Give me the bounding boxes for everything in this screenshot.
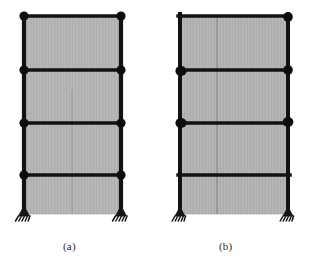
support-hatch <box>113 216 116 221</box>
support-hatch <box>16 216 19 221</box>
infill-panel-b-storey-1 <box>180 16 288 70</box>
plastic-hinge-marker <box>116 170 125 179</box>
infill-panel-b-storey-3 <box>180 123 288 175</box>
plastic-hinge-marker <box>116 118 125 127</box>
frame-diagram-svg <box>0 0 312 265</box>
plastic-hinge-marker <box>116 11 125 20</box>
plastic-hinge-marker <box>19 11 28 20</box>
subfigure-caption-b: (b) <box>219 240 232 252</box>
plastic-hinge-marker <box>19 118 28 127</box>
support-hatch <box>28 216 30 221</box>
subfigure-b <box>172 12 293 221</box>
plastic-hinge-marker <box>19 170 28 179</box>
support-hatch <box>116 216 119 221</box>
plastic-hinge-marker <box>116 65 125 74</box>
support-hatch <box>122 216 124 221</box>
support-hatch <box>175 216 178 221</box>
figure-container: (a) (b) <box>0 0 312 265</box>
infill-panel-a-storey-2 <box>24 70 121 123</box>
plastic-hinge-marker <box>175 118 186 128</box>
support-hatch <box>25 216 27 221</box>
infill-panel-b-storey-2 <box>180 70 288 123</box>
infill-panels-a <box>24 16 121 214</box>
support-hatch <box>283 216 286 221</box>
plastic-hinge-marker <box>283 12 293 22</box>
support-hatch <box>292 216 294 221</box>
infill-panel-a-storey-4 <box>24 175 121 214</box>
plastic-hinge-marker <box>19 65 28 74</box>
support-hatch <box>19 216 22 221</box>
support-hatch <box>184 216 186 221</box>
support-hatch <box>178 216 180 221</box>
support-hatch <box>125 216 127 221</box>
support-hatch <box>289 216 291 221</box>
plastic-hinge-marker <box>283 65 293 75</box>
support-hatch <box>181 216 183 221</box>
plastic-hinge-marker <box>283 117 294 127</box>
subfigure-a <box>16 11 128 221</box>
plastic-hinge-marker <box>175 66 186 76</box>
support-hatch <box>286 216 288 221</box>
infill-panel-a-storey-1 <box>24 16 121 70</box>
support-hatch <box>280 216 283 221</box>
infill-panels-b <box>180 16 288 214</box>
support-hatch <box>172 216 175 221</box>
infill-panel-a-storey-3 <box>24 123 121 175</box>
support-hatch <box>119 216 122 221</box>
infill-panel-b-storey-4 <box>180 175 288 214</box>
subfigure-caption-a: (a) <box>63 240 76 252</box>
support-hatch <box>22 216 25 221</box>
